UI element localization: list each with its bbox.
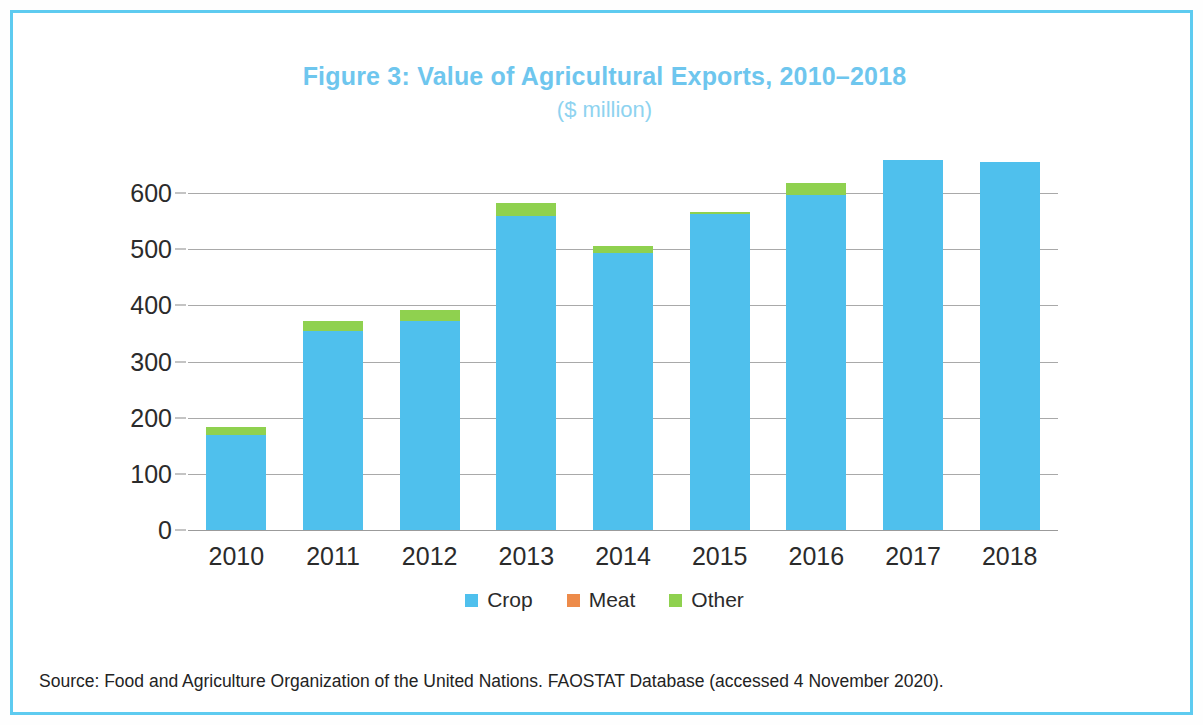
y-axis-tick-mark [175, 193, 186, 194]
stacked-bar[interactable] [206, 427, 266, 530]
x-axis-tick-label: 2010 [188, 542, 285, 571]
bar-segment-crop [206, 435, 266, 530]
stacked-bar[interactable] [400, 310, 460, 530]
stacked-bar[interactable] [496, 203, 556, 530]
y-axis-tick-mark [175, 530, 186, 531]
y-axis-tick-label: 0 [158, 516, 172, 545]
stacked-bar[interactable] [690, 212, 750, 530]
legend-item-crop[interactable]: Crop [465, 588, 533, 612]
y-axis-tick-mark [175, 361, 186, 362]
y-axis-tick-label: 500 [130, 235, 172, 264]
bar-slot [865, 193, 962, 530]
plot-area: 0100200300400500600 [188, 193, 1058, 530]
bar-group [188, 193, 1058, 530]
x-axis-tick-label: 2014 [575, 542, 672, 571]
bar-segment-other [400, 310, 460, 321]
bar-slot [575, 193, 672, 530]
bar-slot [188, 193, 285, 530]
y-axis-tick-mark [175, 305, 186, 306]
x-axis-tick-label: 2011 [285, 542, 382, 571]
stacked-bar[interactable] [786, 183, 846, 530]
bar-segment-crop [496, 216, 556, 530]
x-axis-tick-label: 2016 [768, 542, 865, 571]
plot-wrapper: 0100200300400500600 20102011201220132014… [13, 13, 1196, 718]
x-axis-tick-label: 2015 [671, 542, 768, 571]
x-axis-tick-label: 2012 [381, 542, 478, 571]
bar-slot [381, 193, 478, 530]
bar-segment-crop [400, 321, 460, 530]
bar-segment-other [496, 203, 556, 216]
legend-label: Crop [487, 588, 533, 612]
bar-slot [671, 193, 768, 530]
y-axis-tick-label: 300 [130, 347, 172, 376]
legend-label: Other [691, 588, 744, 612]
legend-item-other[interactable]: Other [669, 588, 744, 612]
bar-slot [478, 193, 575, 530]
bar-segment-other [206, 427, 266, 435]
bar-slot [285, 193, 382, 530]
legend-swatch-icon [567, 594, 580, 607]
bar-segment-other [786, 183, 846, 194]
bar-slot [768, 193, 865, 530]
y-axis-tick-mark [175, 417, 186, 418]
figure-frame: Figure 3: Value of Agricultural Exports,… [10, 10, 1193, 715]
legend-item-meat[interactable]: Meat [567, 588, 636, 612]
bar-segment-crop [980, 162, 1040, 530]
figure-page: Figure 3: Value of Agricultural Exports,… [0, 0, 1203, 725]
legend-swatch-icon [465, 594, 478, 607]
stacked-bar[interactable] [303, 321, 363, 531]
bar-segment-crop [786, 195, 846, 530]
legend-swatch-icon [669, 594, 682, 607]
bar-segment-crop [303, 331, 363, 530]
source-note: Source: Food and Agriculture Organizatio… [39, 670, 1179, 693]
bar-slot [961, 193, 1058, 530]
stacked-bar[interactable] [593, 246, 653, 530]
y-axis-tick-mark [175, 249, 186, 250]
bar-segment-crop [593, 253, 653, 530]
y-axis-tick-label: 200 [130, 403, 172, 432]
x-axis-tick-label: 2013 [478, 542, 575, 571]
chart-legend: CropMeatOther [13, 588, 1196, 612]
stacked-bar[interactable] [980, 162, 1040, 530]
x-axis-tick-label: 2017 [865, 542, 962, 571]
legend-label: Meat [589, 588, 636, 612]
bar-segment-other [303, 321, 363, 331]
bar-segment-crop [690, 214, 750, 530]
x-axis-labels: 201020112012201320142015201620172018 [188, 542, 1058, 571]
x-axis-tick-label: 2018 [961, 542, 1058, 571]
y-axis-tick-label: 100 [130, 459, 172, 488]
y-axis-tick-label: 400 [130, 291, 172, 320]
stacked-bar[interactable] [883, 160, 943, 530]
gridline [188, 530, 1058, 531]
bar-segment-crop [883, 160, 943, 530]
y-axis-tick-mark [175, 473, 186, 474]
y-axis-tick-label: 600 [130, 179, 172, 208]
